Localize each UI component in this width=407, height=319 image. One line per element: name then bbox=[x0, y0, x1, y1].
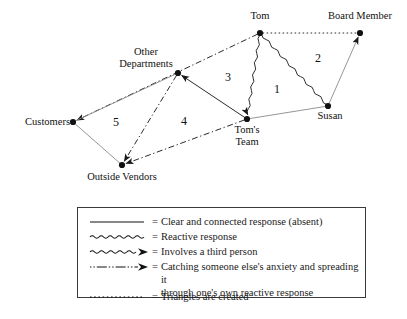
legend-label-2: Involves a third person bbox=[161, 245, 258, 258]
legend-equals-sign: = bbox=[152, 230, 161, 243]
legend: =Clear and connected response (absent)=R… bbox=[77, 207, 366, 298]
legend-label-1: Reactive response bbox=[161, 230, 237, 243]
node-dot-toms_team[interactable] bbox=[244, 116, 250, 122]
legend-symbol-solid-icon bbox=[86, 215, 152, 229]
node-dot-tom[interactable] bbox=[257, 30, 263, 36]
node-dot-outside_vendors[interactable] bbox=[119, 162, 125, 168]
legend-label-0: Clear and connected response (absent) bbox=[161, 215, 323, 228]
node-label-board_member: Board Member bbox=[300, 10, 407, 22]
node-dot-board_member[interactable] bbox=[357, 30, 363, 36]
node-dot-susan[interactable] bbox=[325, 103, 331, 109]
legend-rows: =Clear and connected response (absent)=R… bbox=[78, 208, 365, 297]
legend-equals-sign: = bbox=[152, 215, 161, 228]
legend-equals-sign: = bbox=[152, 290, 161, 303]
edge-other-departments-customers-thin bbox=[75, 74, 176, 121]
legend-row-1: =Reactive response bbox=[78, 230, 365, 245]
edge-tom-susan bbox=[262, 35, 327, 104]
edge-susan-board-member bbox=[329, 37, 358, 103]
network-diagram: TomBoard MemberOther DepartmentsCustomer… bbox=[0, 0, 407, 319]
node-dot-other_departments[interactable] bbox=[175, 70, 181, 76]
node-dot-customers[interactable] bbox=[70, 119, 76, 125]
legend-label-4: Triangles are created bbox=[161, 290, 249, 303]
node-label-other_departments: Other Departments bbox=[86, 46, 206, 69]
region-number-2: 2 bbox=[315, 51, 321, 66]
legend-row-0: =Clear and connected response (absent) bbox=[78, 215, 365, 230]
node-label-customers: Customers bbox=[0, 116, 70, 128]
legend-symbol-wavy-icon bbox=[86, 230, 152, 244]
region-number-1: 1 bbox=[274, 82, 280, 97]
legend-symbol-dotted-icon bbox=[86, 290, 152, 304]
node-label-toms_team: Tom's Team bbox=[187, 124, 307, 147]
legend-row-3: =Catching someone else's anxiety and spr… bbox=[78, 260, 365, 290]
legend-symbol-wavy-arrow-icon bbox=[86, 245, 152, 259]
region-number-4: 4 bbox=[181, 114, 187, 129]
legend-symbol-dash-dot-arrow-icon bbox=[86, 260, 152, 274]
region-number-5: 5 bbox=[113, 115, 119, 130]
node-label-susan: Susan bbox=[270, 110, 390, 122]
edge-tom-toms-team bbox=[247, 36, 260, 115]
legend-equals-sign: = bbox=[152, 245, 161, 258]
legend-row-2: =Involves a third person bbox=[78, 245, 365, 260]
region-number-3: 3 bbox=[225, 70, 231, 85]
legend-equals-sign: = bbox=[152, 260, 161, 273]
node-label-outside_vendors: Outside Vendors bbox=[62, 171, 182, 183]
edge-toms-team-other-departments bbox=[182, 75, 245, 117]
